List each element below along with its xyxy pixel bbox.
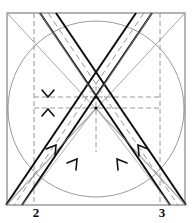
construction-drawing xyxy=(0,0,192,223)
ray-node-lower-left xyxy=(22,108,96,205)
ray-node-lower-left-outer xyxy=(6,108,96,205)
ray-node-lower-right xyxy=(96,108,170,205)
arrow-center-down-icon xyxy=(42,90,54,97)
band-right-to-left xyxy=(6,13,152,205)
band-rl-edge-b xyxy=(6,13,136,205)
ray-node-lower-right-outer xyxy=(96,108,186,205)
figure-container: 2 3 xyxy=(0,0,192,223)
label-point-3: 3 xyxy=(154,206,170,219)
arrow-lower-right-inner-icon xyxy=(117,159,127,170)
arrow-center-up-icon xyxy=(42,109,54,116)
arrow-lower-left-inner-icon xyxy=(67,159,77,170)
band-lr-edge-b xyxy=(56,13,186,205)
node-upper xyxy=(94,95,97,98)
node-lower xyxy=(94,106,97,109)
band-left-to-right xyxy=(40,13,186,205)
label-point-2: 2 xyxy=(28,206,44,219)
